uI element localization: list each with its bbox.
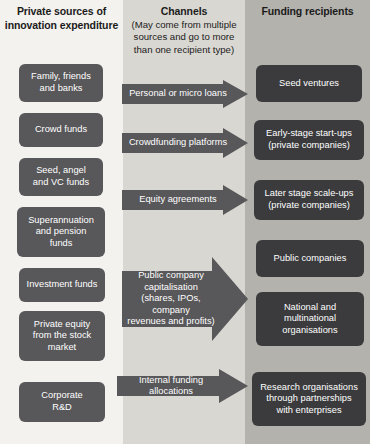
source-label-line-2: from the stock [33,330,91,342]
recipient-label: Seed ventures [279,78,339,90]
sources-header-line-2: innovation expenditure [2,19,121,33]
channel-arrow-public-company-capitalisation[interactable]: Public company capitalisation (shares, I… [122,257,248,341]
recipient-node-early-stage-start-ups[interactable]: Early-stage start-ups (private companies… [254,120,364,160]
channel-label-line-2: capitalisation [124,282,218,293]
channel-arrow-equity-agreements[interactable]: Equity agreements [122,185,248,215]
source-node-superannuation-and-pension-funds[interactable]: Superannuation and pension funds [17,207,105,257]
recipient-label-line-1: Later stage scale-ups [265,188,354,200]
channel-label: Internal funding allocations [119,375,223,398]
recipients-column-header: Funding recipients [247,5,368,19]
recipient-node-seed-ventures[interactable]: Seed ventures [256,65,362,102]
source-label-line-1: Corporate [41,390,82,402]
recipient-node-later-stage-scale-ups[interactable]: Later stage scale-ups (private companies… [254,180,364,220]
channel-label: Equity agreements [139,194,217,205]
channel-label-line-4: revenues and profits) [124,316,218,327]
channel-label: Crowdfunding platforms [129,137,227,148]
source-node-corporate-rnd[interactable]: Corporate R&D [19,382,105,422]
recipient-node-national-and-multinational-organisations[interactable]: National and multinational organisations [256,292,364,346]
source-label-line-1: Superannuation [28,215,94,227]
recipient-label-line-1: Research organisations [260,382,358,394]
recipient-label-line-2: multinational [282,313,337,325]
recipient-label-line-2: (private companies) [266,140,352,152]
sources-column-header: Private sources of innovation expenditur… [2,5,121,32]
source-label-line-3: funds [28,238,94,250]
channel-arrow-crowdfunding-platforms[interactable]: Crowdfunding platforms [122,128,248,158]
recipient-label-line-2: through partnerships [260,393,358,405]
source-label-line-3: market [33,342,91,354]
channels-subtitle-line-3: than one recipient type) [126,44,242,56]
source-node-investment-funds[interactable]: Investment funds [19,268,105,302]
recipient-label: Public companies [274,253,347,265]
source-label-line-2: and VC funds [33,177,89,189]
recipient-label-line-2: (private companies) [265,200,354,212]
diagram-canvas: Private sources of innovation expenditur… [0,0,370,444]
channel-label-line-1: Public company [124,270,218,281]
channel-label-line-3: (shares, IPOs, company [124,293,218,316]
source-node-private-equity-from-the-stock-market[interactable]: Private equity from the stock market [19,311,105,361]
source-node-seed-angel-and-vc-funds[interactable]: Seed, angel and VC funds [19,158,103,196]
source-node-family-friends-and-banks[interactable]: Family, friends and banks [19,64,103,102]
source-label-line-2: and pension [28,226,94,238]
channels-subtitle-line-1: (May come from multiple [126,19,242,31]
channels-subtitle-line-2: sources and go to more [126,31,242,43]
source-label-line-2: R&D [41,402,82,414]
source-label: Crowd funds [35,124,87,136]
recipient-label-line-3: with enterprises [260,405,358,417]
recipient-node-public-companies[interactable]: Public companies [256,240,364,277]
source-label-line-1: Family, friends [31,71,91,83]
recipient-label-line-3: organisations [282,325,337,337]
channels-column-header: Channels [125,5,243,19]
recipient-node-research-organisations-through-partnerships[interactable]: Research organisations through partnersh… [252,372,366,426]
source-node-crowd-funds[interactable]: Crowd funds [19,113,103,147]
channel-arrow-internal-funding-allocations[interactable]: Internal funding allocations [117,369,248,403]
channels-column-subtitle: (May come from multiple sources and go t… [126,19,242,56]
recipient-label-line-1: Early-stage start-ups [266,128,352,140]
sources-header-line-1: Private sources of [2,5,121,19]
recipient-label-line-1: National and [282,302,337,314]
channel-arrow-personal-or-micro-loans[interactable]: Personal or micro loans [122,80,248,108]
source-label-line-1: Seed, angel [33,165,89,177]
channel-label: Personal or micro loans [129,88,227,99]
source-label-line-2: and banks [31,83,91,95]
source-label-line-1: Private equity [33,319,91,331]
channel-label-block: Public company capitalisation (shares, I… [124,270,218,327]
source-label: Investment funds [27,279,98,291]
